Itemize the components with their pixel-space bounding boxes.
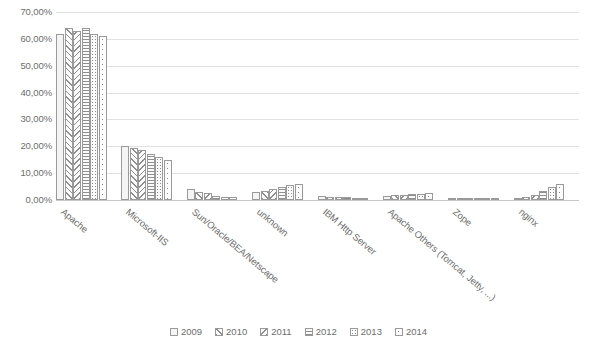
y-axis-tick-label: 60,00% — [0, 33, 52, 44]
legend-label: 2014 — [406, 326, 427, 337]
bar — [90, 34, 98, 201]
legend-item[interactable]: 2013 — [350, 326, 382, 337]
legend-label: 2010 — [226, 326, 247, 337]
legend-swatch-icon — [215, 328, 223, 336]
plot-area — [56, 12, 579, 200]
y-axis-tick-label: 50,00% — [0, 60, 52, 71]
bar — [99, 36, 107, 200]
bar-group — [252, 12, 317, 200]
bar — [73, 31, 81, 200]
legend-swatch-icon — [395, 328, 403, 336]
x-axis-category-label: Zope — [451, 206, 474, 228]
bar — [164, 160, 172, 200]
y-axis-tick-label: 30,00% — [0, 113, 52, 124]
bar — [556, 184, 564, 200]
legend-swatch-icon — [170, 328, 178, 336]
bar — [548, 187, 556, 200]
bar-group — [187, 12, 252, 200]
legend-item[interactable]: 2010 — [215, 326, 247, 337]
bar-group — [448, 12, 513, 200]
x-axis-category-labels: ApacheMicrosoft-IISSun/Oracle/BEA/Netsca… — [56, 200, 579, 310]
legend-label: 2013 — [361, 326, 382, 337]
y-axis-tick-label: 70,00% — [0, 6, 52, 17]
bar-group — [383, 12, 448, 200]
bar-group — [56, 12, 121, 200]
x-axis-category-label: nginx — [517, 206, 541, 229]
x-axis-category-label: unknown — [255, 206, 291, 238]
bar — [295, 184, 303, 200]
bar-group — [514, 12, 579, 200]
y-axis-tick-label: 20,00% — [0, 140, 52, 151]
x-axis-category-label: Apache Others (Tomcat, Jetty, ...) — [386, 206, 498, 303]
bar-chart: 70,00%60,00%50,00%40,00%30,00%20,00%10,0… — [0, 0, 597, 347]
bar — [195, 192, 203, 200]
bar — [269, 189, 277, 200]
legend-item[interactable]: 2014 — [395, 326, 427, 337]
x-axis-category-label: IBM Http Server — [320, 206, 378, 257]
bar — [121, 146, 129, 200]
bar — [82, 28, 90, 200]
bar — [278, 187, 286, 200]
bar-groups — [56, 12, 579, 200]
legend-swatch-icon — [350, 328, 358, 336]
legend-swatch-icon — [305, 328, 313, 336]
bar — [65, 28, 73, 200]
bar — [286, 185, 294, 200]
legend-item[interactable]: 2011 — [260, 326, 291, 337]
bar — [187, 189, 195, 200]
bar — [147, 154, 155, 200]
bar — [155, 157, 163, 200]
bar-group — [318, 12, 383, 200]
x-axis-category-label: Apache — [59, 206, 90, 235]
bar — [130, 148, 138, 200]
y-axis-tick-label: 0,00% — [0, 194, 52, 205]
legend-label: 2009 — [181, 326, 202, 337]
legend-swatch-icon — [260, 328, 268, 336]
bar — [56, 34, 64, 201]
y-axis-tick-label: 10,00% — [0, 167, 52, 178]
bar — [261, 191, 269, 200]
bar — [425, 193, 433, 200]
x-axis-category-label: Microsoft-IIS — [124, 206, 171, 248]
legend-label: 2011 — [271, 326, 291, 337]
y-axis-tick-label: 40,00% — [0, 87, 52, 98]
chart-legend: 200920102011201220132014 — [0, 326, 597, 337]
legend-label: 2012 — [316, 326, 337, 337]
bar — [539, 191, 547, 200]
legend-item[interactable]: 2009 — [170, 326, 202, 337]
bar — [204, 193, 212, 200]
bar-group — [121, 12, 186, 200]
legend-item[interactable]: 2012 — [305, 326, 337, 337]
bar — [138, 150, 146, 200]
bar — [252, 192, 260, 200]
